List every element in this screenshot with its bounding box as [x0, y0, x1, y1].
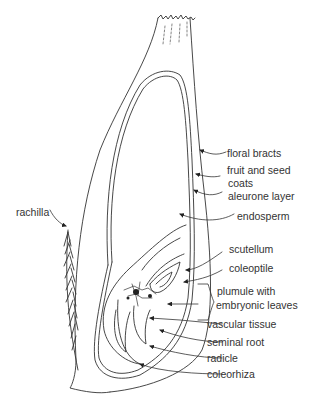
label-plumule-with: plumule with	[217, 285, 275, 297]
label-seminal-root: seminal root	[207, 336, 264, 348]
label-endosperm: endosperm	[237, 210, 290, 222]
embryo-structures	[103, 225, 186, 364]
label-rachilla: rachilla	[16, 206, 49, 218]
label-vascular-tissue: vascular tissue	[207, 318, 276, 330]
label-floral-bracts: floral bracts	[227, 147, 281, 159]
label-embryonic-leaves: embryonic leaves	[216, 299, 298, 311]
label-coats: coats	[228, 177, 253, 189]
label-coleoptile: coleoptile	[229, 262, 273, 274]
label-fruit-and-seed: fruit and seed	[227, 164, 291, 176]
label-radicle: radicle	[207, 352, 238, 364]
label-aleurone-layer: aleurone layer	[228, 190, 295, 202]
label-scutellum: scutellum	[229, 243, 273, 255]
label-coleorhiza: coleorhiza	[207, 368, 255, 380]
seed-coat-outline	[94, 71, 194, 378]
grain-diagram: floral bracts fruit and seed coats aleur…	[0, 0, 322, 400]
vascular-tissue-stipple	[124, 282, 156, 306]
